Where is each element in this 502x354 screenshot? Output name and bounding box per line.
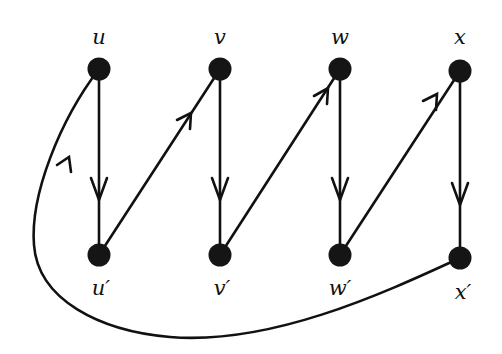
edge-w-prime-to-x [340,71,460,255]
arrowhead-up-right-icon [423,94,437,110]
directed-graph-diagram: u v w x u′ v′ w′ x′ [0,0,502,354]
node-x [449,60,472,83]
node-u [88,58,111,81]
edge-v-to-v-prime [212,69,228,255]
label-v-prime: v′ [214,276,231,300]
label-w-prime: w′ [329,276,352,300]
node-v-prime [209,244,232,267]
arrowhead-up-right-icon [314,88,328,104]
node-u-prime [88,244,111,267]
edge-u-prime-to-v [99,69,220,255]
label-x: x [454,25,466,49]
label-w: w [331,25,349,49]
edge-x-to-x-prime [452,71,468,258]
edge-u-to-u-prime [91,69,107,255]
label-u: u [92,25,106,49]
node-w [329,58,352,81]
label-v: v [214,25,226,49]
node-x-prime [449,247,472,270]
node-w-prime [329,244,352,267]
arrowhead-up-icon [57,157,71,172]
label-u-prime: u′ [92,276,111,300]
node-v [209,58,232,81]
edge-w-to-w-prime [332,69,348,255]
label-x-prime: x′ [455,280,472,304]
edge-v-prime-to-w [220,69,340,255]
